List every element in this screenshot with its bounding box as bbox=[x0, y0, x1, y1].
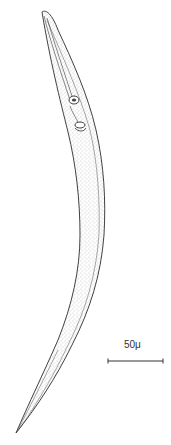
median-bulb-inner bbox=[72, 98, 76, 101]
tail-line bbox=[18, 350, 58, 430]
cardia bbox=[75, 122, 85, 128]
nematode-illustration bbox=[0, 0, 171, 445]
nematode-body bbox=[16, 11, 105, 433]
scale-bar bbox=[108, 359, 163, 364]
scale-bar-label: 50μ bbox=[124, 339, 141, 350]
